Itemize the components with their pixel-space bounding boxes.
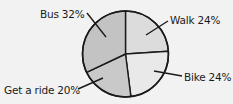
- label-walk: Walk 24%: [170, 14, 220, 26]
- label-bus: Bus 32%: [40, 8, 85, 20]
- pie-chart: Bus 32% Walk 24% Bike 24% Get a ride 20%: [0, 0, 233, 104]
- label-get-a-ride: Get a ride 20%: [4, 84, 80, 96]
- label-bike: Bike 24%: [184, 71, 231, 83]
- slice-bike: [126, 51, 169, 96]
